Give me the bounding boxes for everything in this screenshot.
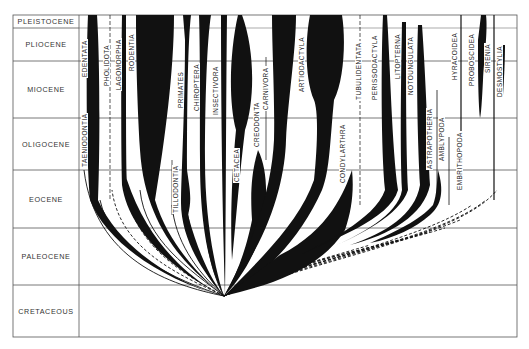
- epoch-pleistocene: PLEISTOCENE: [14, 15, 78, 28]
- taxon-notoungulata: NOTOUNGULATA: [407, 36, 414, 96]
- taxon-tillodontia: TILLODONTIA: [172, 165, 179, 214]
- taxon-rodentia: RODENTIA: [128, 33, 135, 72]
- taxon-pholidota: PHOLIDOTA: [103, 44, 110, 87]
- taxon-insectivora: INSECTIVORA: [212, 65, 219, 116]
- epoch-cretaceous: CRETACEOUS: [14, 285, 78, 337]
- phylogeny-diagram: PLEISTOCENE PLIOCENE MIOCENE OLIGOCENE E…: [0, 0, 529, 349]
- taxon-taeniodontia: TAENIODONTIA: [81, 113, 88, 168]
- taxon-condylarthra: CONDYLARTHRA: [339, 123, 346, 184]
- taxon-hyracoidea: HYRACOIDEA: [451, 32, 458, 81]
- taxon-astrapotheria: ASTRAPOTHERIA: [426, 108, 433, 170]
- taxon-perissodactyla: PERISSODACTYLA: [371, 34, 378, 101]
- taxon-amblypoda: AMBLYPODA: [438, 116, 445, 162]
- taxon-carnivora: CARNIVORA: [262, 67, 269, 112]
- taxon-chiroptera: CHIROPTERA: [193, 63, 200, 112]
- taxon-lagomorpha: LAGOMORPHA: [115, 38, 122, 91]
- taxon-sirenia: SIRENIA: [484, 43, 491, 74]
- taxon-cetacea: CETACEA: [233, 148, 240, 183]
- taxon-desmostylia: DESMOSTYLIA: [496, 45, 503, 98]
- taxon-embrithopoda: EMBRITHOPODA: [456, 131, 463, 191]
- taxon-artiodactyla: ARTIODACTYLA: [298, 36, 305, 93]
- taxon-primates: PRIMATES: [177, 71, 184, 109]
- diagram-canvas: [0, 0, 529, 349]
- epoch-miocene: MIOCENE: [14, 61, 78, 118]
- epoch-oligocene: OLIGOCENE: [14, 118, 78, 170]
- taxon-litopterna: LITOPTERNA: [394, 33, 401, 80]
- taxon-proboscidea: PROBOSCIDEA: [468, 33, 475, 87]
- taxon-edentata: EDENTATA: [81, 39, 88, 78]
- taxon-creodonta: CREODONTA: [253, 101, 260, 148]
- epoch-eocene: EOCENE: [14, 170, 78, 228]
- taxon-tubulidentata: TUBULIDENTATA: [355, 41, 362, 101]
- epoch-pliocene: PLIOCENE: [14, 28, 78, 61]
- epoch-paleocene: PALEOCENE: [14, 228, 78, 285]
